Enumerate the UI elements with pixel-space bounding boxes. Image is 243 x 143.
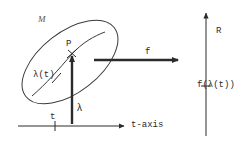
manifold-label: M [38,15,46,24]
t-parameter-label: t [50,113,55,122]
curve-lambda-label: λ [77,103,82,113]
map-f-label: f [145,48,150,57]
curve-point-label: λ(t) [33,71,55,80]
image-value-label: f(λ(t)) [197,81,235,90]
reals-axis-label: R [216,27,221,36]
manifold-ellipse [7,4,132,120]
point-p-label: P [66,40,71,49]
diagram-canvas: M P λ(t) λ f t t-axis R f(λ(t)) [0,0,243,143]
t-axis-label: t-axis [131,121,163,130]
